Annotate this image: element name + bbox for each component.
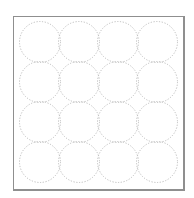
circle-r1-c2: [59, 22, 100, 63]
circle-r4-c2: [59, 142, 100, 183]
circle-grid: [0, 0, 194, 198]
circle-r4-c3: [98, 142, 139, 183]
circle-r4-c1: [20, 142, 61, 183]
circle-r2-c4: [137, 62, 178, 103]
circle-r3-c2: [59, 102, 100, 143]
circle-r3-c3: [98, 102, 139, 143]
circle-r2-c1: [20, 62, 61, 103]
circle-r3-c1: [20, 102, 61, 143]
circle-r1-c4: [137, 22, 178, 63]
circle-r4-c4: [137, 142, 178, 183]
circle-r2-c2: [59, 62, 100, 103]
circle-r1-c3: [98, 22, 139, 63]
circle-r2-c3: [98, 62, 139, 103]
circle-r1-c1: [20, 22, 61, 63]
circle-r3-c4: [137, 102, 178, 143]
